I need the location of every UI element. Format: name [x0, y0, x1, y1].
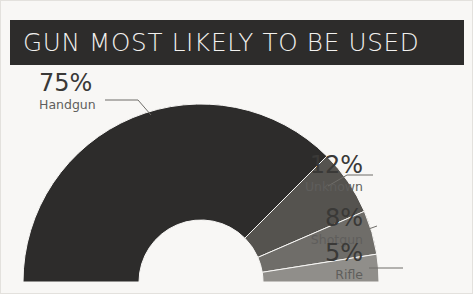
callout-unknown-category: Unknown	[263, 181, 363, 194]
callout-handgun-percent: 75%	[39, 71, 96, 95]
callout-handgun-category: Handgun	[39, 99, 96, 112]
semi-donut-chart	[1, 1, 473, 294]
callout-rifle-category: Rifle	[263, 269, 363, 282]
callout-unknown-percent: 12%	[263, 153, 363, 177]
leader-line-handgun	[105, 100, 151, 115]
callout-unknown: 12% Unknown	[263, 153, 363, 194]
callout-rifle-percent: 5%	[263, 241, 363, 265]
chart-canvas: GUN MOST LIKELY TO BE USED 75% Handgun 1…	[0, 0, 473, 294]
callout-handgun: 75% Handgun	[39, 71, 96, 112]
callout-shotgun-percent: 8%	[263, 206, 363, 230]
callout-rifle: 5% Rifle	[263, 241, 363, 282]
